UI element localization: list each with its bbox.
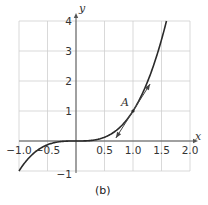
- x-tick-label: −0.5: [35, 144, 61, 156]
- x-tick-label: 0.5: [96, 144, 113, 156]
- cubic-graph: −1.0−0.50.51.01.52.0−11234 x y A (b): [0, 0, 208, 205]
- y-tick-label: 1: [65, 105, 72, 117]
- tick-labels: −1.0−0.50.51.01.52.0−11234: [6, 15, 198, 180]
- x-tick-label: 1.0: [125, 144, 142, 156]
- x-tick-label: 1.5: [153, 144, 170, 156]
- point-a-label: A: [120, 96, 129, 109]
- y-axis-label: y: [78, 2, 86, 15]
- x-tick-label: 2.0: [182, 144, 199, 156]
- y-tick-label: 3: [65, 45, 72, 57]
- figure-caption: (b): [95, 184, 111, 197]
- x-axis-label: x: [195, 130, 202, 143]
- y-axis-arrow-icon: [74, 13, 78, 18]
- y-tick-label: 2: [65, 75, 72, 87]
- tangent-arrow-icon: [116, 132, 121, 138]
- y-tick-label: −1: [57, 168, 72, 180]
- y-tick-label: 4: [65, 15, 72, 27]
- point-a-marker: [131, 109, 134, 112]
- x-tick-label: −1.0: [6, 144, 32, 156]
